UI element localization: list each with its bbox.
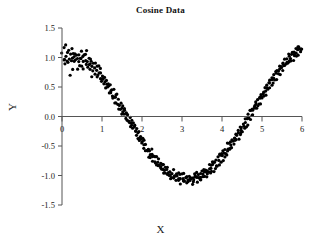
data-point — [170, 172, 173, 175]
data-point — [90, 65, 93, 68]
data-point — [103, 76, 106, 79]
data-point — [71, 68, 74, 71]
x-axis-label: X — [0, 223, 321, 235]
x-tick-label: 5 — [260, 124, 264, 134]
data-point — [264, 94, 267, 97]
data-point — [275, 78, 278, 81]
data-point — [150, 147, 153, 150]
data-point — [66, 61, 69, 64]
data-point — [64, 55, 67, 58]
data-point — [209, 167, 212, 170]
data-point — [82, 67, 85, 70]
data-point — [179, 177, 182, 180]
data-point — [91, 69, 94, 72]
data-point — [119, 102, 122, 105]
data-point — [90, 75, 93, 78]
x-tick-label: 0 — [60, 124, 64, 134]
y-axis-label: Y — [6, 99, 18, 115]
data-point — [99, 71, 102, 74]
x-tick-label: 6 — [300, 124, 304, 134]
data-point — [281, 69, 284, 72]
data-point — [218, 163, 221, 166]
scatter-plot-canvas: 1.51.00.50.0-0.5-1.0-1.50123456 — [0, 0, 321, 243]
y-tick-label: -1.5 — [42, 200, 55, 210]
data-point — [212, 170, 215, 173]
data-point — [199, 178, 202, 181]
data-point — [162, 163, 165, 166]
data-point — [99, 67, 102, 70]
data-point — [225, 153, 228, 156]
data-point — [232, 143, 235, 146]
data-point — [85, 63, 88, 66]
x-tick-label: 4 — [220, 124, 225, 134]
data-point — [172, 168, 175, 171]
y-tick-label: -0.5 — [42, 141, 55, 151]
data-point — [246, 123, 249, 126]
data-point — [109, 91, 112, 94]
data-point — [182, 172, 185, 175]
data-point — [93, 73, 96, 76]
y-tick-label: 1.5 — [44, 23, 55, 33]
data-point — [234, 138, 237, 141]
data-point — [80, 50, 83, 53]
y-tick-label: 1.0 — [44, 53, 55, 63]
data-point — [77, 53, 80, 56]
data-point — [292, 59, 295, 62]
data-point — [300, 47, 303, 50]
data-point — [246, 113, 249, 116]
data-point — [76, 68, 79, 71]
data-point — [112, 88, 115, 91]
data-point — [94, 61, 97, 64]
y-tick-label: -1.0 — [42, 171, 55, 181]
y-tick-label: 0.5 — [44, 82, 55, 92]
x-tick-label: 1 — [100, 124, 104, 134]
data-point — [251, 113, 254, 116]
data-point — [117, 98, 120, 101]
data-point — [86, 60, 89, 63]
chart-title: Cosine Data — [0, 5, 321, 15]
x-tick-label: 2 — [140, 124, 144, 134]
data-point — [166, 166, 169, 169]
data-point — [84, 53, 87, 56]
data-point — [268, 81, 271, 84]
data-point — [279, 73, 282, 76]
data-point — [241, 130, 244, 133]
data-point — [196, 181, 199, 184]
data-point — [237, 138, 240, 141]
data-point — [70, 47, 73, 50]
data-point — [85, 49, 88, 52]
data-point — [179, 182, 182, 185]
data-point — [69, 74, 72, 77]
data-point — [135, 127, 138, 130]
data-point — [285, 57, 288, 60]
data-point — [222, 159, 225, 162]
data-point — [259, 102, 262, 105]
data-point — [297, 54, 300, 57]
data-point — [205, 175, 208, 178]
data-point — [271, 82, 274, 85]
data-point — [88, 68, 91, 71]
data-point — [249, 118, 252, 121]
chart-figure: Cosine Data Y X 1.51.00.50.0-0.5-1.0-1.5… — [0, 0, 321, 243]
data-point — [63, 62, 66, 65]
data-point — [80, 65, 83, 68]
x-tick-label: 3 — [180, 124, 184, 134]
data-point — [76, 57, 79, 60]
data-point — [175, 174, 178, 177]
data-point — [62, 46, 65, 49]
data-point — [192, 180, 195, 183]
data-point — [244, 121, 247, 124]
data-point — [67, 49, 70, 52]
data-point — [265, 84, 268, 87]
data-point — [115, 92, 118, 95]
data-point — [121, 104, 124, 107]
data-point — [95, 69, 98, 72]
data-points-group — [60, 43, 303, 186]
data-point — [109, 83, 112, 86]
data-point — [142, 139, 145, 142]
data-point — [126, 113, 129, 116]
data-point — [144, 143, 147, 146]
data-point — [114, 96, 117, 99]
data-point — [64, 43, 67, 46]
y-tick-label: 0.0 — [44, 112, 55, 122]
